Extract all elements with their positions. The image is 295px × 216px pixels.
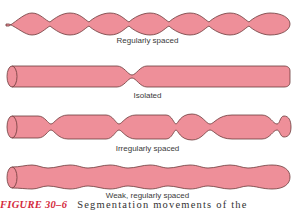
tube-weak-regularly-spaced <box>7 165 290 189</box>
caption-text: Segmentation movements of the <box>77 199 247 210</box>
segmentation-figure: Regularly spaced Isolated Irregularly sp… <box>0 0 295 216</box>
figure-number: FIGURE 30–6 <box>0 199 67 210</box>
tube-irregularly-spaced <box>7 114 291 140</box>
tube-isolated <box>7 66 290 87</box>
figure-caption: FIGURE 30–6Segmentation movements of the <box>0 199 295 210</box>
intestine-diagrams <box>0 0 295 216</box>
label-regularly-spaced: Regularly spaced <box>0 36 295 45</box>
label-irregularly-spaced: Irregularly spaced <box>0 144 295 153</box>
tube-regularly-spaced <box>6 13 290 35</box>
label-isolated: Isolated <box>0 91 295 100</box>
